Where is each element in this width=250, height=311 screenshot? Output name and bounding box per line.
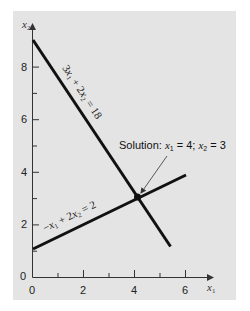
x-tick-label-2: 2 xyxy=(80,284,86,296)
solution-point xyxy=(134,194,141,201)
y-tick-label-4: 4 xyxy=(21,166,27,178)
x-tick-label-4: 4 xyxy=(131,284,137,296)
x-tick-label-0: 0 xyxy=(29,284,35,296)
y-tick-label-8: 8 xyxy=(21,61,27,73)
y-tick-label-6: 6 xyxy=(21,113,27,125)
chart: 0 2 4 6 0 2 4 6 8 x2 x1 3x1 + 2x2 = 18 −… xyxy=(0,0,250,311)
x-tick-label-6: 6 xyxy=(182,284,188,296)
plot-background xyxy=(13,11,236,300)
y-tick-label-0: 0 xyxy=(20,270,26,282)
y-tick-label-2: 2 xyxy=(21,218,27,230)
